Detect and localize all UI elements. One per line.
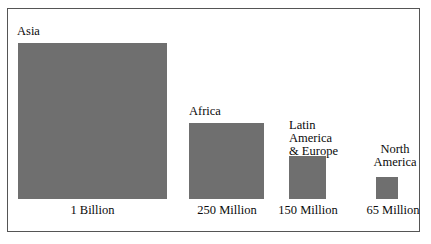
bar-rect-north-america [376,177,398,199]
bar-category-label-africa: Africa [189,105,221,118]
bar-category-label-north-america: NorthAmerica [369,143,421,169]
chart-figure: Asia 1 Billion Africa 250 Million LatinA… [7,8,420,232]
bar-category-label-latin-america-europe: LatinAmerica& Europe [289,119,338,158]
bar-rect-latin-america-europe [289,156,326,199]
bar-value-label-asia: 1 Billion [18,203,167,217]
bar-category-label-line2: America [373,155,416,169]
bar-value-label-latin-america-europe: 150 Million [262,203,354,217]
bar-value-label-north-america: 65 Million [351,203,431,217]
bar-rect-africa [189,123,264,199]
bar-category-label-line1: Latin [289,118,315,132]
plot-area: Asia 1 Billion Africa 250 Million LatinA… [8,9,419,231]
bar-value-label-africa: 250 Million [181,203,273,217]
bar-category-label-line1: North [380,142,409,156]
bar-rect-asia [18,43,167,199]
bar-category-label-line2: America [289,131,332,145]
bar-category-label-asia: Asia [17,25,40,38]
